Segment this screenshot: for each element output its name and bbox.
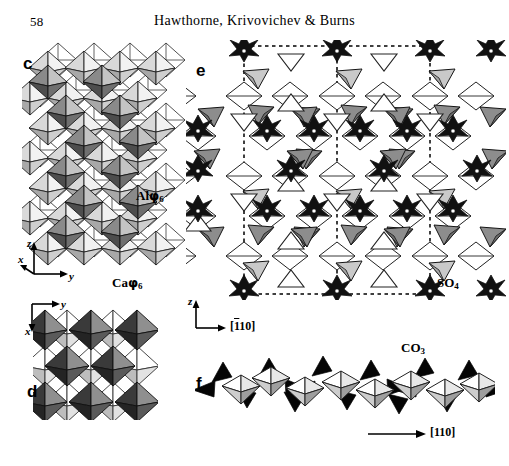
label-so4-sub: 4 [454,281,459,291]
label-ca-phi6-element: Ca [112,275,128,290]
label-so4: SO4 [437,276,459,291]
panel-c-axis-triad: z y x [18,238,80,286]
label-co3-element: CO [401,340,421,355]
panel-e-axis-arrows [186,296,296,340]
label-al-phi6: Alφ6 [136,189,164,204]
label-al-phi6-element: Al [136,188,149,203]
panel-d-axis-triad: y x [24,296,72,340]
panel-f-letter: f [196,375,202,392]
panel-c-axis-label-y: y [69,271,74,282]
direction-label-110: [110] [430,426,455,438]
panel-e-figure [186,40,506,300]
panel-c-figure [22,38,187,268]
panel-e-axis-triad: z [110] [186,296,296,340]
label-co3-sub: 3 [421,346,426,356]
label-ca-phi6: Caφ6 [112,276,143,291]
running-head: Hawthorne, Krivovichev & Burns [0,13,509,29]
label-al-phi6-sub: 6 [159,194,164,204]
label-ca-phi6-phi: φ [128,275,138,290]
panel-f-axis: [110] [366,422,496,446]
direction-rest: 10] [239,319,255,333]
panel-c-axis-label-z: z [27,238,31,249]
label-so4-element: SO [437,275,454,290]
panel-d-axis-label-x: x [25,326,31,337]
direction-label-bar110: [110] [230,320,255,332]
figure-page: 58 Hawthorne, Krivovichev & Burns [0,0,509,466]
panel-c-letter: c [23,55,32,72]
panel-c-axis-label-x: x [18,254,24,265]
panel-e-axis-label-z: z [188,296,192,307]
label-al-phi6-phi: φ [149,188,159,203]
panel-d-letter: d [27,383,37,400]
panel-d-axis-label-y: y [61,299,66,310]
label-ca-phi6-sub: 6 [138,281,143,291]
panel-e-letter: e [196,62,205,79]
label-co3: CO3 [401,341,425,356]
